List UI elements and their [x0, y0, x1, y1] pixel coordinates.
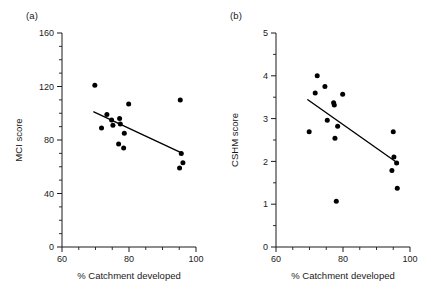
data-point [340, 92, 345, 97]
data-point [92, 83, 97, 88]
data-point [332, 136, 337, 141]
panel-b-plot: 0123456080100% Catchment developedCSHM s… [216, 0, 431, 297]
data-point [118, 121, 123, 126]
data-point [178, 97, 183, 102]
data-point [122, 131, 127, 136]
data-point [313, 90, 318, 95]
y-tick-label: 0 [49, 242, 54, 252]
panel-a: (a) 040801201606080100% Catchment develo… [0, 0, 215, 297]
data-point [126, 101, 131, 106]
figure-container: (a) 040801201606080100% Catchment develo… [0, 0, 431, 297]
x-tick-label: 80 [338, 254, 348, 264]
x-tick-label: 60 [271, 254, 281, 264]
x-tick-label: 60 [57, 254, 67, 264]
y-axis-title: MCI score [13, 118, 24, 161]
data-point [180, 160, 185, 165]
data-point [110, 123, 115, 128]
y-tick-label: 4 [263, 71, 268, 81]
data-point [116, 142, 121, 147]
data-point [334, 199, 339, 204]
data-point [389, 168, 394, 173]
data-point [391, 155, 396, 160]
data-point [395, 186, 400, 191]
data-point [394, 161, 399, 166]
x-tick-label: 80 [124, 254, 134, 264]
data-point [391, 129, 396, 134]
data-point [177, 166, 182, 171]
data-point [99, 125, 104, 130]
y-tick-label: 40 [44, 189, 54, 199]
data-point [335, 124, 340, 129]
x-axis-title: % Catchment developed [77, 270, 181, 281]
data-point [325, 118, 330, 123]
data-point [121, 146, 126, 151]
data-point [322, 84, 327, 89]
y-tick-label: 5 [263, 28, 268, 38]
y-tick-label: 2 [263, 157, 268, 167]
y-tick-label: 120 [39, 82, 54, 92]
y-tick-label: 160 [39, 28, 54, 38]
x-tick-label: 100 [402, 254, 417, 264]
panel-b: (b) 0123456080100% Catchment developedCS… [216, 0, 431, 297]
data-point [315, 73, 320, 78]
regression-line [308, 100, 398, 164]
data-point [117, 116, 122, 121]
x-axis-title: % Catchment developed [291, 270, 395, 281]
y-tick-label: 3 [263, 114, 268, 124]
y-tick-label: 80 [44, 135, 54, 145]
data-point [104, 112, 109, 117]
data-point [307, 129, 312, 134]
regression-line [94, 112, 183, 153]
y-tick-label: 1 [263, 199, 268, 209]
data-point [332, 102, 337, 107]
y-axis-title: CSHM score [229, 113, 240, 167]
data-point [179, 151, 184, 156]
x-tick-label: 100 [188, 254, 203, 264]
data-point [109, 117, 114, 122]
panel-a-plot: 040801201606080100% Catchment developedM… [0, 0, 215, 297]
y-tick-label: 0 [263, 242, 268, 252]
